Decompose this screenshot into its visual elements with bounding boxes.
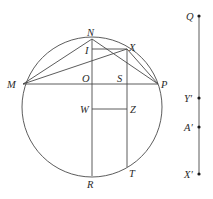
segment-MX <box>23 49 127 84</box>
point-label-W: W <box>80 104 90 115</box>
point-label-O: O <box>82 73 90 84</box>
point-label-S: S <box>117 73 123 84</box>
point-labels: NMPOXISWZRT <box>6 27 168 190</box>
point-label-I: I <box>84 45 89 56</box>
number-line-label-2: A′ <box>183 122 193 133</box>
point-label-P: P <box>160 79 168 90</box>
geometry-diagram: NMPOXISWZRT QY′A′X′ <box>0 0 213 199</box>
number-line-dot-1 <box>197 96 200 99</box>
number-line-points: QY′A′X′ <box>183 11 201 180</box>
circle-figure: NMPOXISWZRT <box>6 27 168 190</box>
point-label-R: R <box>86 179 94 190</box>
number-line-dot-0 <box>197 14 200 17</box>
point-label-M: M <box>6 79 17 90</box>
number-line-dot-2 <box>197 125 200 128</box>
point-label-N: N <box>86 27 95 38</box>
number-line-dot-3 <box>197 172 200 175</box>
point-label-X: X <box>128 42 136 53</box>
number-line: QY′A′X′ <box>183 11 201 180</box>
point-label-Z: Z <box>130 104 136 115</box>
segments <box>23 39 158 176</box>
number-line-label-3: X′ <box>183 169 193 180</box>
number-line-label-1: Y′ <box>184 93 193 104</box>
number-line-label-0: Q <box>186 11 194 22</box>
point-label-T: T <box>129 168 136 179</box>
